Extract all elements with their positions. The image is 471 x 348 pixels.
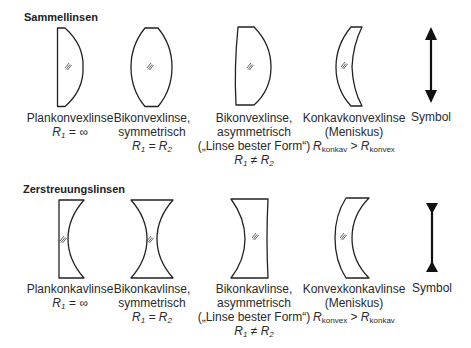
bikonkav-symmetric-lens-icon (131, 200, 173, 278)
konkavkonvex-meniskus-lens-icon (336, 27, 362, 106)
caption-symbol-zerstreuung: Symbol (412, 281, 452, 295)
formula: R1 ≠ R2 (198, 324, 311, 342)
converging-lens-symbol-icon (425, 27, 437, 103)
formula: R1 ≠ R2 (198, 153, 311, 171)
caption-plankonvex: Plankonvexlinse R1 = ∞ (27, 111, 114, 143)
caption-bikonvex-asymmetric: Bikonvexlinse, asymmetrisch („Linse best… (198, 111, 311, 171)
plankonkav-lens-icon (59, 200, 84, 278)
plankonvex-lens-icon (58, 28, 84, 107)
caption-konvexkonkav: Konvexkonkavlinse (Meniskus) Rkonvex > R… (303, 282, 406, 328)
caption-symbol-sammel: Symbol (411, 110, 451, 124)
caption-konkavkonvex: Konkavkonvexlinse (Meniskus) Rkonkav > R… (303, 111, 406, 157)
diverging-lens-symbol-icon (426, 203, 438, 272)
formula: Rkonvex > Rkonkav (303, 310, 406, 328)
bikonvex-symmetric-lens-icon (131, 28, 172, 107)
formula: R1 = ∞ (27, 296, 114, 314)
konvexkonkav-meniskus-lens-icon (335, 198, 369, 278)
caption-plankonkav: Plankonkavlinse R1 = ∞ (27, 282, 114, 314)
bikonkav-asymmetric-lens-icon (231, 199, 268, 278)
formula: R1 = ∞ (27, 125, 114, 143)
formula: R1 = R2 (114, 310, 191, 328)
caption-bikonkav-symmetric: Bikonkavlinse, symmetrisch R1 = R2 (114, 282, 191, 328)
bikonvex-asymmetric-lens-icon (235, 27, 271, 105)
formula: R1 = R2 (114, 139, 191, 157)
formula: Rkonkav > Rkonvex (303, 139, 406, 157)
caption-bikonkav-asymmetric: Bikonkavlinse, asymmetrisch („Linse best… (198, 282, 311, 342)
caption-bikonvex-symmetric: Bikonvexlinse, symmetrisch R1 = R2 (114, 111, 191, 157)
